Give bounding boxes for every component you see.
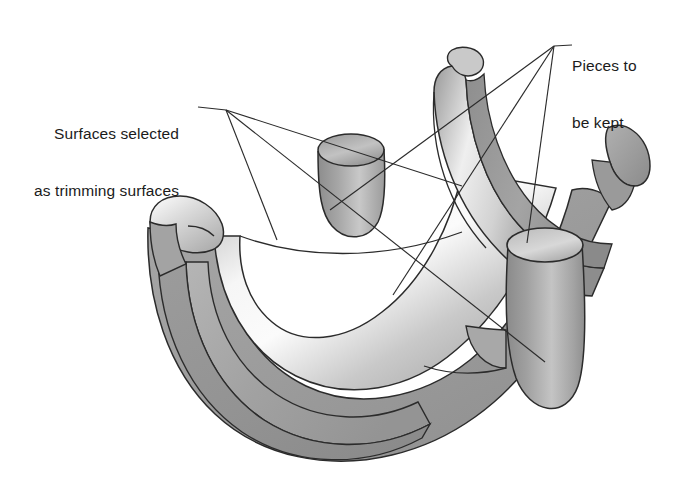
left-leader-stub [198, 107, 226, 110]
pieces-to-be-kept-line-2: be kept [572, 113, 637, 132]
pieces-to-be-kept-callout: Pieces to be kept [572, 18, 637, 170]
surfaces-selected-callout: Surfaces selected as trimming surfaces [34, 86, 179, 238]
trimming-surfaces-figure: Surfaces selected as trimming surfaces P… [0, 0, 680, 500]
surfaces-selected-line-2: as trimming surfaces [34, 181, 179, 200]
surfaces-selected-line-1: Surfaces selected [34, 124, 179, 143]
right-branch-cylinder-body [506, 244, 585, 409]
right-branch-cylinder-opening [507, 228, 583, 262]
right-leader-stub [554, 45, 572, 46]
pieces-to-be-kept-line-1: Pieces to [572, 56, 637, 75]
